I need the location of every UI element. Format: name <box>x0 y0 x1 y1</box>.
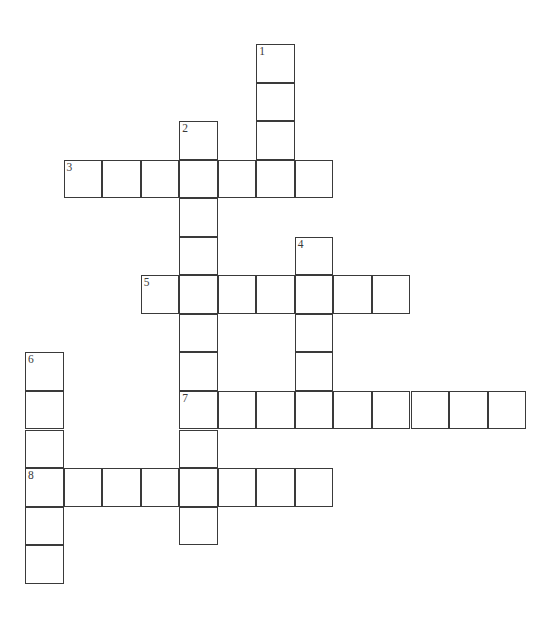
crossword-cell[interactable]: 2 <box>179 121 218 160</box>
cell-number: 3 <box>67 161 73 174</box>
cell-number: 6 <box>28 353 34 366</box>
crossword-cell[interactable] <box>218 275 257 314</box>
cell-number: 5 <box>144 276 150 289</box>
crossword-cell[interactable] <box>449 391 488 430</box>
crossword-cell[interactable] <box>218 160 257 199</box>
crossword-cell[interactable] <box>256 391 295 430</box>
crossword-cell[interactable] <box>179 507 218 546</box>
crossword-cell[interactable] <box>179 430 218 469</box>
crossword-cell[interactable] <box>25 507 64 546</box>
crossword-cell[interactable] <box>179 352 218 391</box>
crossword-cell[interactable]: 8 <box>25 468 64 507</box>
crossword-cell[interactable] <box>372 391 411 430</box>
cell-number: 1 <box>259 45 265 58</box>
crossword-cell[interactable] <box>295 468 334 507</box>
crossword-cell[interactable] <box>295 160 334 199</box>
crossword-grid: 12734568 <box>0 0 553 623</box>
crossword-cell[interactable]: 7 <box>179 391 218 430</box>
crossword-cell[interactable] <box>256 121 295 160</box>
crossword-cell[interactable] <box>295 352 334 391</box>
crossword-cell[interactable] <box>256 468 295 507</box>
cell-number: 2 <box>182 122 188 135</box>
crossword-cell[interactable] <box>179 237 218 276</box>
crossword-cell[interactable]: 4 <box>295 237 334 276</box>
crossword-cell[interactable] <box>25 430 64 469</box>
crossword-cell[interactable]: 3 <box>64 160 103 199</box>
crossword-cell[interactable]: 6 <box>25 352 64 391</box>
crossword-cell[interactable] <box>141 160 180 199</box>
crossword-cell[interactable] <box>102 468 141 507</box>
crossword-cell[interactable] <box>295 314 334 353</box>
crossword-cell[interactable] <box>256 160 295 199</box>
cell-number: 8 <box>28 469 34 482</box>
crossword-cell[interactable] <box>411 391 450 430</box>
cell-number: 4 <box>298 238 304 251</box>
cell-number: 7 <box>182 392 188 405</box>
crossword-cell[interactable] <box>179 314 218 353</box>
crossword-cell[interactable] <box>25 545 64 584</box>
crossword-cell[interactable] <box>488 391 527 430</box>
crossword-cell[interactable] <box>333 391 372 430</box>
crossword-cell[interactable] <box>256 275 295 314</box>
crossword-cell[interactable] <box>256 83 295 122</box>
crossword-cell[interactable] <box>218 468 257 507</box>
crossword-cell[interactable] <box>333 275 372 314</box>
crossword-cell[interactable] <box>295 391 334 430</box>
crossword-cell[interactable] <box>102 160 141 199</box>
crossword-cell[interactable] <box>64 468 103 507</box>
crossword-cell[interactable] <box>218 391 257 430</box>
crossword-cell[interactable] <box>179 275 218 314</box>
crossword-cell[interactable] <box>179 160 218 199</box>
crossword-cell[interactable] <box>372 275 411 314</box>
crossword-cell[interactable]: 1 <box>256 44 295 83</box>
crossword-cell[interactable]: 5 <box>141 275 180 314</box>
crossword-cell[interactable] <box>25 391 64 430</box>
crossword-cell[interactable] <box>295 275 334 314</box>
crossword-puzzle: 12734568 <box>0 0 553 623</box>
crossword-cell[interactable] <box>179 468 218 507</box>
crossword-cell[interactable] <box>141 468 180 507</box>
crossword-cell[interactable] <box>179 198 218 237</box>
